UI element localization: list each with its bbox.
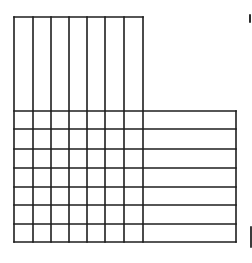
scan-artifact-top (249, 14, 251, 23)
horizontal-strips (14, 111, 236, 242)
grid-diagram (0, 0, 252, 263)
scan-artifact-bottom (250, 226, 252, 248)
